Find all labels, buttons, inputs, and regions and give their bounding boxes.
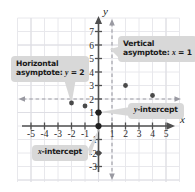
vertical-asymptote-pointer	[110, 47, 118, 57]
x-tick-label: -3	[54, 129, 62, 139]
y-tick-label: 3	[89, 81, 94, 91]
horizontal-asymptote-line2: asymptote: y = 2	[16, 69, 84, 78]
data-point	[96, 150, 101, 155]
graph-figure: -5 -4 -3 -2 -1 1 2 3 4 5 7 6 5 4 3 2 1 -…	[0, 0, 195, 192]
x-intercept-text: -intercept	[42, 147, 82, 156]
data-point	[150, 93, 155, 98]
va-rest: = 1	[176, 48, 192, 57]
x-tick-label: 1	[110, 129, 115, 139]
y-tick-label: 2	[89, 95, 94, 105]
va-prefix: asymptote:	[123, 48, 172, 57]
y-tick-label: -3	[89, 162, 97, 172]
x-tick-label: 3	[137, 129, 142, 139]
data-point	[69, 101, 74, 106]
y-intercept-pointer	[100, 107, 130, 116]
vertical-asymptote-callout: Vertical asymptote: x = 1	[118, 36, 195, 62]
ha-prefix: asymptote:	[16, 68, 65, 77]
data-point	[95, 109, 101, 115]
x-tick-label: -1	[81, 129, 89, 139]
y-intercept-callout: y-intercept	[128, 103, 184, 119]
x-tick-label: -4	[41, 129, 49, 139]
y-tick-label: 1	[89, 108, 94, 118]
y-tick-label: 6	[89, 41, 94, 51]
y-tick-label: 7	[89, 27, 94, 37]
vertical-asymptote-line2: asymptote: x = 1	[123, 49, 192, 58]
y-tick-label: 4	[89, 68, 94, 78]
data-point	[95, 123, 101, 129]
x-tick-label: -2	[68, 129, 76, 139]
x-tick-label: -5	[27, 129, 35, 139]
y-axis-label: y	[102, 5, 108, 17]
data-point	[123, 83, 128, 88]
ha-rest: = 2	[68, 68, 84, 77]
y-tick-label: 5	[89, 54, 94, 64]
horizontal-asymptote-callout: Horizontal asymptote: y = 2	[11, 56, 89, 82]
coordinate-plane: -5 -4 -3 -2 -1 1 2 3 4 5 7 6 5 4 3 2 1 -…	[0, 0, 195, 192]
data-point	[83, 104, 88, 109]
x-tick-label: 4	[150, 129, 155, 139]
y-intercept-text: -intercept	[137, 105, 177, 114]
x-intercept-callout: x-intercept	[32, 145, 88, 161]
x-tick-label: 2	[123, 129, 128, 139]
x-tick-label: 5	[164, 129, 169, 139]
